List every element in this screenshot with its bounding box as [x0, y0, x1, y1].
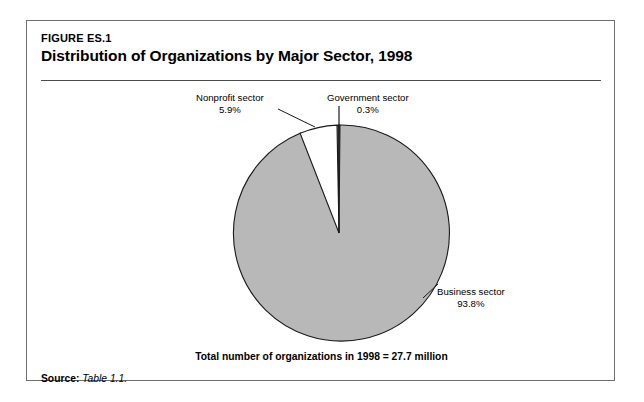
callout-business-value: 93.8%: [437, 298, 505, 310]
leader-line-nonprofit: [278, 109, 315, 127]
source-value: Table 1.1.: [82, 373, 127, 384]
total-organizations-note: Total number of organizations in 1998 = …: [27, 351, 616, 362]
callout-nonprofit: Nonprofit sector 5.9%: [196, 92, 264, 115]
callout-business: Business sector 93.8%: [437, 286, 505, 309]
source-line: Source: Table 1.1.: [41, 373, 127, 384]
callout-nonprofit-name: Nonprofit sector: [196, 92, 264, 104]
callout-business-name: Business sector: [437, 286, 505, 298]
figure-box: FIGURE ES.1 Distribution of Organization…: [26, 20, 615, 381]
pie-chart: Nonprofit sector 5.9% Government sector …: [27, 21, 616, 382]
callout-government-value: 0.3%: [327, 104, 409, 116]
callout-government: Government sector 0.3%: [327, 92, 409, 115]
callout-government-name: Government sector: [327, 92, 409, 104]
pie-slice-business: [233, 125, 449, 341]
pie-chart-graphic: [27, 21, 616, 382]
callout-nonprofit-value: 5.9%: [196, 104, 264, 116]
source-label: Source:: [41, 373, 79, 384]
